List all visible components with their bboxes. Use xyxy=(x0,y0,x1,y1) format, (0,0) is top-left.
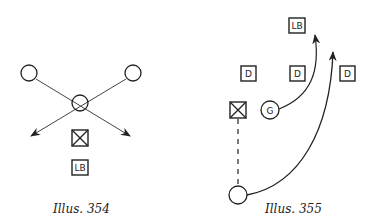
linebacker-box: LB xyxy=(72,160,88,175)
guard-circle: G xyxy=(261,101,279,119)
crossed-box-icon xyxy=(230,102,246,118)
left-to-right-path xyxy=(36,79,130,136)
svg-text:D: D xyxy=(245,69,252,79)
svg-text:D: D xyxy=(344,69,351,79)
caption-illus-355: Illus. 355 xyxy=(265,202,322,216)
left-player-circle xyxy=(21,65,37,81)
linebacker-box: LB xyxy=(289,18,305,33)
defender-box-3: D xyxy=(340,66,355,81)
defender-box-1: D xyxy=(241,66,256,81)
svg-text:D: D xyxy=(294,69,301,79)
defender-box-2: D xyxy=(290,66,305,81)
svg-text:G: G xyxy=(267,106,274,116)
illustration-354: LB xyxy=(21,65,141,175)
right-player-circle xyxy=(125,65,141,81)
caption-illus-354: Illus. 354 xyxy=(53,202,110,216)
right-to-left-path xyxy=(31,79,126,136)
svg-text:LB: LB xyxy=(291,21,302,31)
back-player-circle xyxy=(229,186,247,204)
svg-text:LB: LB xyxy=(74,163,85,173)
crossed-box-icon xyxy=(72,130,88,146)
diagram-canvas: LB LB D D D G xyxy=(0,0,374,219)
illustration-355: LB D D D G xyxy=(229,18,355,204)
